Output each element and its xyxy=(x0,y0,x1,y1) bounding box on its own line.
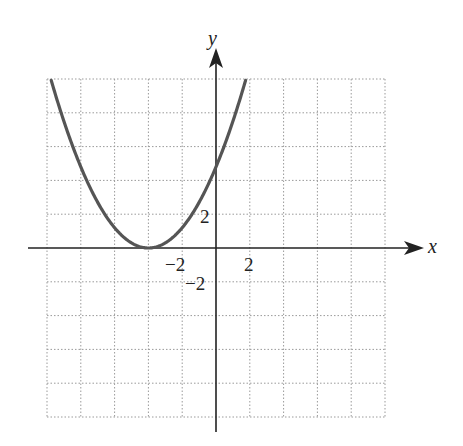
chart-canvas xyxy=(0,0,463,446)
x-tick-label-neg2: −2 xyxy=(165,255,185,274)
x-tick-label-2: 2 xyxy=(244,255,254,274)
y-tick-label-neg2: −2 xyxy=(185,274,205,293)
y-tick-label-2: 2 xyxy=(200,207,210,226)
y-axis-label: y xyxy=(208,28,217,48)
axes xyxy=(28,48,424,432)
x-axis-label: x xyxy=(428,236,437,256)
